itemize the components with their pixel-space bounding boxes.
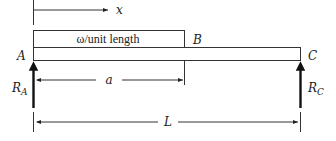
- x-coordinate-arrow: [34, 0, 109, 25]
- beam: [34, 48, 301, 61]
- reaction-c-label: RC: [307, 81, 324, 97]
- x-label: x: [116, 3, 123, 17]
- dimension-l-label: L: [163, 115, 172, 129]
- reaction-a-label: RA: [11, 81, 28, 97]
- point-a-label: A: [16, 49, 26, 63]
- beam-diagram: x ω/unit length B A C RA RC a L: [0, 0, 336, 141]
- point-b-label: B: [192, 33, 202, 47]
- point-c-label: C: [308, 49, 317, 63]
- dimension-a-label: a: [105, 73, 112, 87]
- load-label: ω/unit length: [77, 32, 140, 46]
